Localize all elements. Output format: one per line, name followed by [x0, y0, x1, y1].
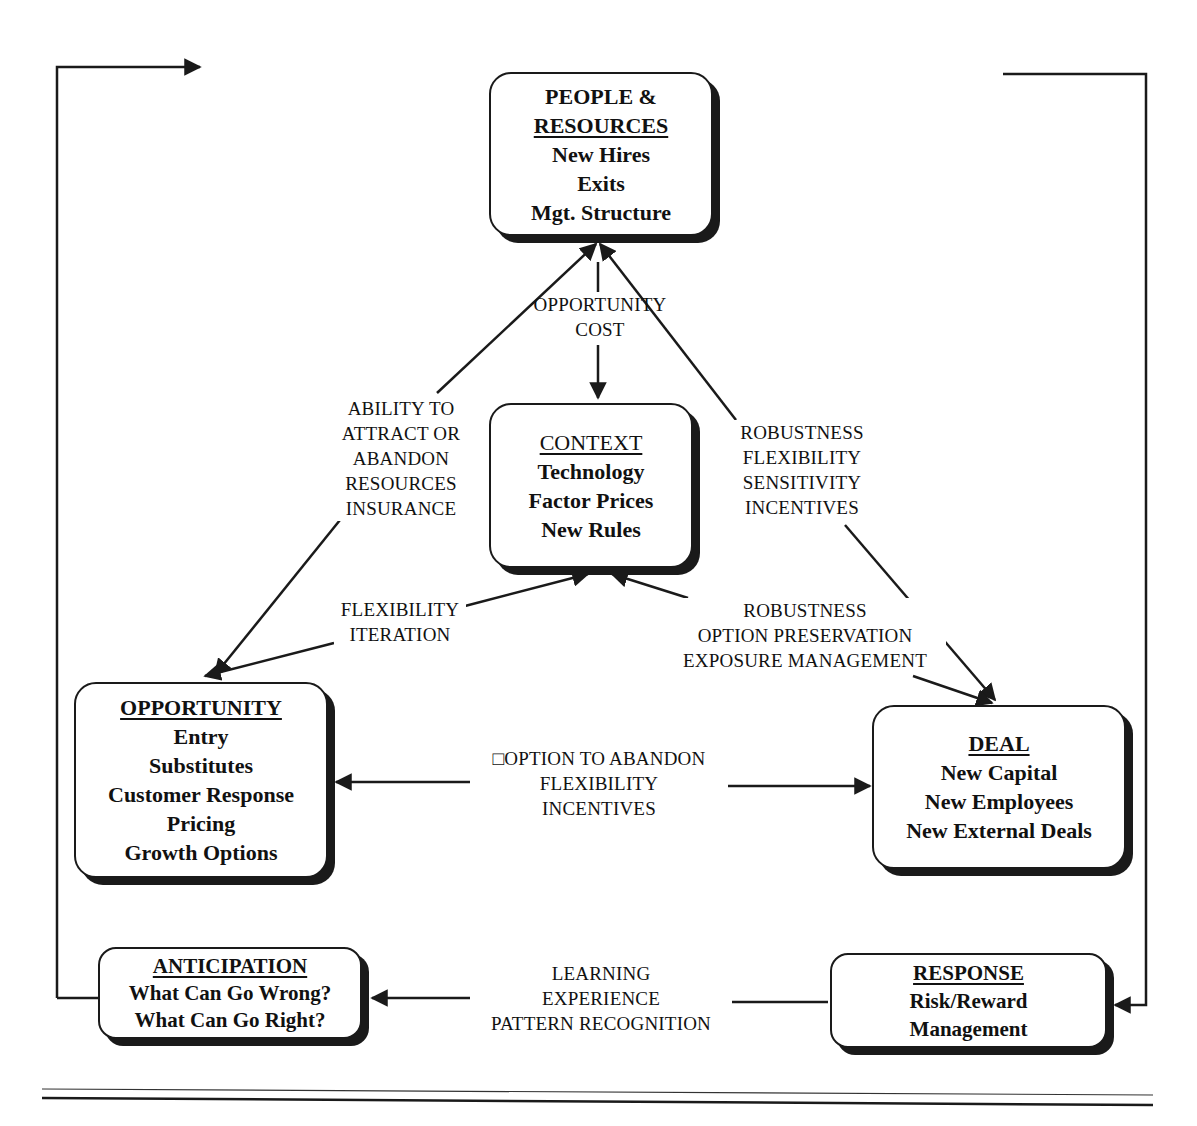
- edge-label-robustness-flexibility: ROBUSTNESS FLEXIBILITY SENSITIVITY INCEN…: [728, 420, 876, 520]
- edge-label-line: OPPORTUNITY: [516, 292, 684, 317]
- node-people-resources: PEOPLE & RESOURCES New Hires Exits Mgt. …: [489, 72, 713, 236]
- node-title: OPPORTUNITY: [76, 693, 326, 722]
- edge-label-line: ROBUSTNESS: [728, 420, 876, 445]
- edge-label-ability-to-attract: ABILITY TO ATTRACT OR ABANDON RESOURCES …: [332, 396, 470, 521]
- bottom-rule-thick: [42, 1098, 1153, 1105]
- node-deal: DEAL New Capital New Employees New Exter…: [872, 705, 1126, 869]
- node-item: New External Deals: [874, 816, 1124, 845]
- edge-label-line: SENSITIVITY: [728, 470, 876, 495]
- node-item: New Hires: [491, 140, 711, 169]
- edge-label-learning-experience: LEARNING EXPERIENCE PATTERN RECOGNITION: [470, 961, 732, 1036]
- edge-label-robustness-option-preservation: ROBUSTNESS OPTION PRESERVATION EXPOSURE …: [664, 598, 946, 673]
- node-title: RESOURCES: [491, 111, 711, 140]
- edge-label-line: INCENTIVES: [728, 495, 876, 520]
- edge-label-line: INSURANCE: [332, 496, 470, 521]
- node-item: Substitutes: [76, 751, 326, 780]
- edge-label-flexibility-iteration: FLEXIBILITY ITERATION: [334, 597, 466, 647]
- edge-label-line: ABANDON: [332, 446, 470, 471]
- edge-label-line: EXPERIENCE: [470, 986, 732, 1011]
- edge-label-line: ITERATION: [334, 622, 466, 647]
- node-item: Factor Prices: [491, 486, 691, 515]
- edge-label-line: ROBUSTNESS: [664, 598, 946, 623]
- edge-label-line: COST: [516, 317, 684, 342]
- node-title: RESPONSE: [832, 959, 1105, 987]
- node-opportunity: OPPORTUNITY Entry Substitutes Customer R…: [74, 682, 328, 878]
- node-title: CONTEXT: [491, 428, 691, 457]
- node-item: What Can Go Wrong?: [100, 980, 360, 1007]
- node-item: Mgt. Structure: [491, 198, 711, 227]
- node-item: What Can Go Right?: [100, 1007, 360, 1034]
- node-item: Entry: [76, 722, 326, 751]
- edge-label-line: LEARNING: [470, 961, 732, 986]
- edge-label-line: EXPOSURE MANAGEMENT: [664, 648, 946, 673]
- node-item: Exits: [491, 169, 711, 198]
- node-item: New Rules: [491, 515, 691, 544]
- edge-label-line: RESOURCES: [332, 471, 470, 496]
- edge-label-line: FLEXIBILITY: [334, 597, 466, 622]
- bottom-rule-thin: [42, 1089, 1153, 1095]
- node-item: New Capital: [874, 758, 1124, 787]
- edge-label-line: FLEXIBILITY: [470, 771, 728, 796]
- edge-label-option-to-abandon: □OPTION TO ABANDON FLEXIBILITY INCENTIVE…: [470, 746, 728, 821]
- node-title: ANTICIPATION: [100, 953, 360, 980]
- edge-label-line: PATTERN RECOGNITION: [470, 1011, 732, 1036]
- node-item: Risk/Reward: [832, 987, 1105, 1015]
- node-item: Pricing: [76, 809, 326, 838]
- node-anticipation: ANTICIPATION What Can Go Wrong? What Can…: [98, 947, 362, 1039]
- node-item: Customer Response: [76, 780, 326, 809]
- edge-label-line: INCENTIVES: [470, 796, 728, 821]
- edge-label-line: OPTION PRESERVATION: [664, 623, 946, 648]
- node-item: New Employees: [874, 787, 1124, 816]
- node-title: DEAL: [874, 729, 1124, 758]
- node-item: Management: [832, 1015, 1105, 1043]
- node-context: CONTEXT Technology Factor Prices New Rul…: [489, 403, 693, 568]
- edge-label-line: ABILITY TO: [332, 396, 470, 421]
- node-item: Growth Options: [76, 838, 326, 867]
- edge-label-line: FLEXIBILITY: [728, 445, 876, 470]
- node-title: PEOPLE &: [491, 82, 711, 111]
- node-response: RESPONSE Risk/Reward Management: [830, 953, 1107, 1048]
- node-item: Technology: [491, 457, 691, 486]
- edge-label-opportunity-cost: OPPORTUNITY COST: [516, 292, 684, 342]
- edge-label-line: ATTRACT OR: [332, 421, 470, 446]
- edge-label-line: □OPTION TO ABANDON: [470, 746, 728, 771]
